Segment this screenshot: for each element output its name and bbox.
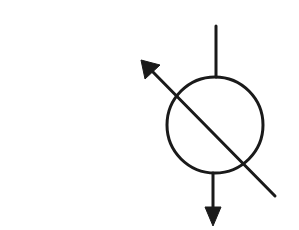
flow-arrow-down-icon bbox=[205, 207, 221, 226]
diagram-canvas bbox=[0, 0, 299, 230]
pump-circle bbox=[167, 77, 263, 173]
variable-displacement-symbol bbox=[0, 0, 299, 230]
